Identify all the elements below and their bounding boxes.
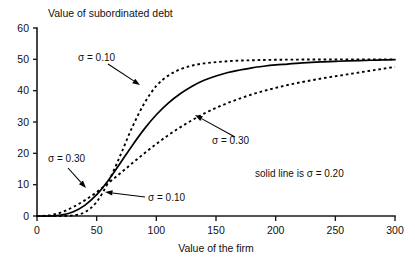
x-tick-label-150: 150: [207, 224, 225, 236]
y-tick-label-50: 50: [17, 53, 29, 65]
annotation-label-sigma-010-lower: σ = 0.10: [148, 192, 185, 203]
y-tick-label-40: 40: [17, 84, 29, 96]
x-tick-label-0: 0: [34, 224, 40, 236]
chart-title: Value of subordinated debt: [48, 7, 173, 19]
chart-figure: Value of subordinated debt 0102030405060…: [0, 0, 415, 271]
annotation-label-sigma-010-upper: σ = 0.10: [78, 52, 115, 63]
annotation-label-sigma-030-right: σ = 0.30: [212, 135, 249, 146]
y-tick-label-20: 20: [17, 147, 29, 159]
x-tick-label-300: 300: [386, 224, 404, 236]
subordinated-debt-chart: Value of subordinated debt 0102030405060…: [0, 0, 415, 271]
legend-note: solid line is σ = 0.20: [255, 168, 344, 179]
x-tick-label-250: 250: [327, 224, 345, 236]
x-tick-label-100: 100: [148, 224, 166, 236]
y-tick-label-0: 0: [23, 210, 29, 222]
x-axis-title: Value of the firm: [178, 242, 254, 254]
y-tick-label-10: 10: [17, 178, 29, 190]
x-tick-label-50: 50: [91, 224, 103, 236]
y-tick-label-60: 60: [17, 22, 29, 34]
y-tick-label-30: 30: [17, 116, 29, 128]
x-tick-label-200: 200: [267, 224, 285, 236]
annotation-label-sigma-030-left: σ = 0.30: [48, 153, 85, 164]
